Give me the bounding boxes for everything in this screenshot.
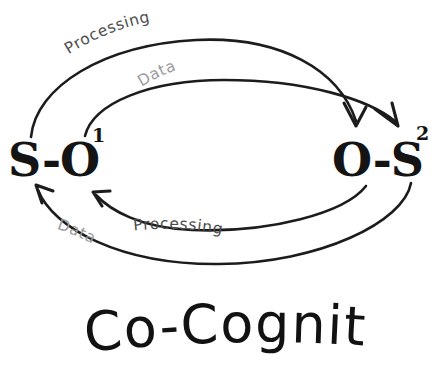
node-right-label: O-S [332,133,423,187]
node-left[interactable]: S-O 1 [8,124,105,187]
edge-label-processing-bottom: Processing [132,215,224,239]
node-right[interactable]: O-S 2 [332,122,429,187]
edge-label-data-bottom: Data [55,215,99,247]
cocognition-diagram: O-S(2) --> O-S(2) --> S-O(1) --> S-O(1) … [0,0,447,386]
edge-label-processing-bottom-text: Processing [132,215,224,239]
edge-label-processing-top-text: Processing [61,8,151,58]
edge-label-processing-top: Processing [61,8,151,58]
arrowhead-into-right-inner [344,103,366,126]
node-left-superscript: 1 [92,124,105,146]
edge-label-data-bottom-text: Data [55,215,99,247]
node-right-superscript: 2 [416,122,429,144]
node-left-label: S-O [8,133,99,187]
diagram-canvas: O-S(2) --> O-S(2) --> S-O(1) --> S-O(1) … [0,0,447,386]
